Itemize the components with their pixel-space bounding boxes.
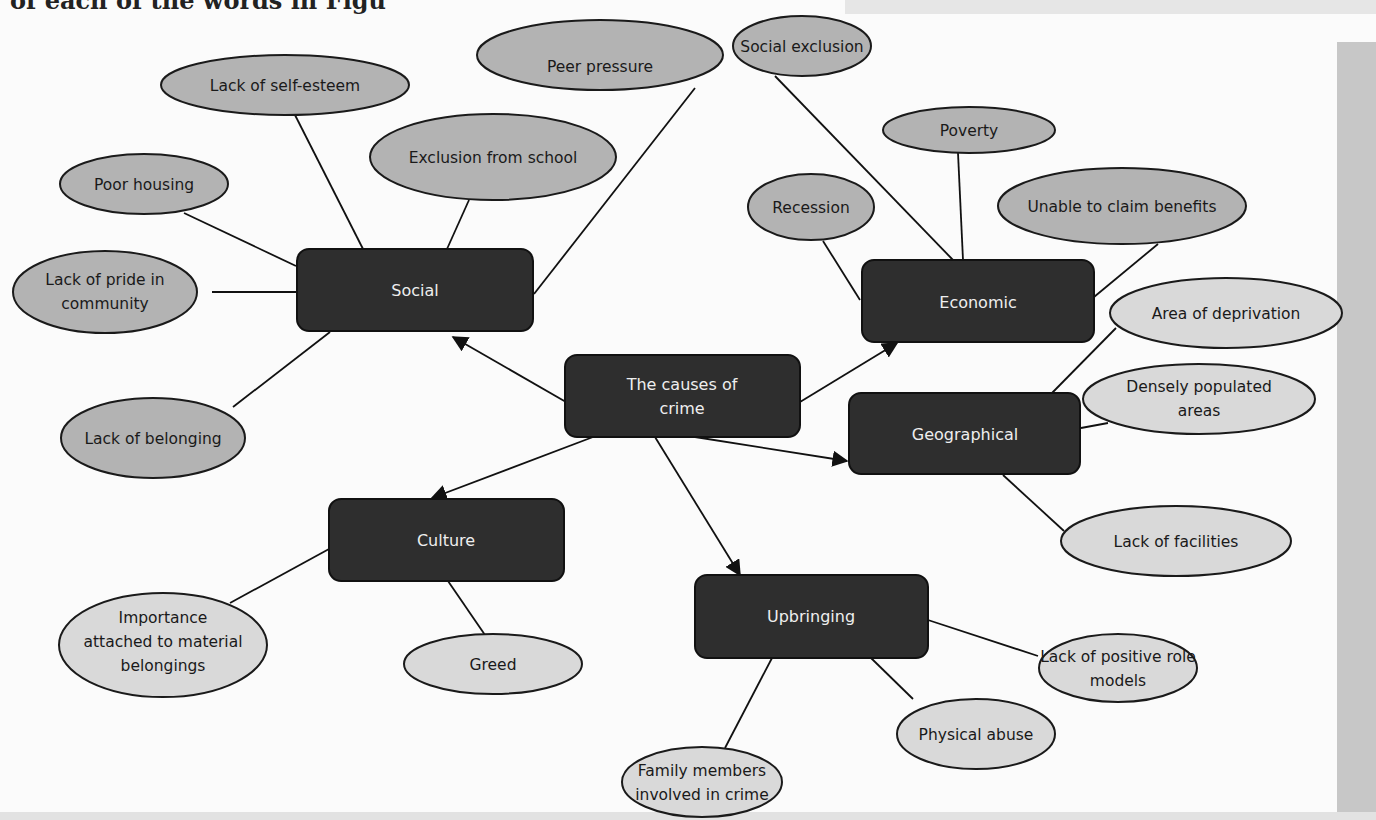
svg-text:areas: areas: [1178, 402, 1221, 420]
cause-family-members-involved-in-crime: Family members involved in crime: [622, 747, 782, 817]
category-social: Social: [297, 249, 533, 331]
cause-poor-housing: Poor housing: [60, 154, 228, 214]
svg-text:Unable to claim benefits: Unable to claim benefits: [1027, 198, 1216, 216]
svg-text:Recession: Recession: [772, 199, 849, 217]
category-upbringing-label: Upbringing: [767, 607, 855, 626]
cause-lack-of-facilities: Lack of facilities: [1061, 506, 1291, 576]
cause-lack-of-belonging: Lack of belonging: [61, 398, 245, 478]
central-node-line2: crime: [659, 399, 704, 418]
svg-text:Importance: Importance: [119, 609, 208, 627]
svg-text:Poverty: Poverty: [940, 122, 999, 140]
cause-greed: Greed: [404, 634, 582, 694]
category-economic-label: Economic: [939, 293, 1016, 312]
central-node: The causes of crime: [565, 355, 800, 437]
category-culture: Culture: [329, 499, 564, 581]
svg-text:Densely populated: Densely populated: [1126, 378, 1272, 396]
svg-text:Lack of self-esteem: Lack of self-esteem: [210, 77, 360, 95]
cause-exclusion-from-school: Exclusion from school: [370, 114, 616, 200]
svg-text:Social exclusion: Social exclusion: [740, 38, 863, 56]
cause-peer-pressure: Peer pressure: [477, 20, 723, 90]
svg-text:Area of deprivation: Area of deprivation: [1152, 305, 1301, 323]
category-geographical: Geographical: [849, 393, 1080, 474]
svg-text:belongings: belongings: [121, 657, 206, 675]
cause-lack-of-self-esteem: Lack of self-esteem: [161, 55, 409, 115]
category-economic: Economic: [862, 260, 1094, 342]
svg-text:models: models: [1090, 672, 1146, 690]
svg-text:Family members: Family members: [638, 762, 766, 780]
cause-lack-of-pride-in-community: Lack of pride in community: [13, 251, 197, 333]
cause-area-of-deprivation: Area of deprivation: [1110, 278, 1342, 348]
svg-text:Exclusion from school: Exclusion from school: [409, 149, 578, 167]
svg-text:Physical abuse: Physical abuse: [919, 726, 1034, 744]
category-culture-label: Culture: [417, 531, 475, 550]
cause-lack-of-positive-role-models: Lack of positive role models: [1039, 634, 1197, 702]
svg-text:Poor housing: Poor housing: [94, 176, 194, 194]
cause-importance-material-belongings: Importance attached to material belongin…: [59, 593, 267, 697]
svg-text:Greed: Greed: [470, 656, 517, 674]
svg-text:Lack of facilities: Lack of facilities: [1114, 533, 1239, 551]
category-social-label: Social: [391, 281, 438, 300]
svg-text:attached to material: attached to material: [84, 633, 243, 651]
cause-recession: Recession: [748, 174, 874, 240]
svg-text:Lack of belonging: Lack of belonging: [84, 430, 221, 448]
svg-text:Lack of pride in: Lack of pride in: [45, 271, 164, 289]
cause-unable-to-claim-benefits: Unable to claim benefits: [998, 168, 1246, 244]
svg-text:community: community: [61, 295, 148, 313]
cause-social-exclusion: Social exclusion: [733, 16, 871, 76]
category-upbringing: Upbringing: [695, 575, 928, 658]
svg-text:Peer pressure: Peer pressure: [547, 58, 653, 76]
cause-poverty: Poverty: [883, 107, 1055, 153]
cause-densely-populated-areas: Densely populated areas: [1083, 364, 1315, 434]
category-geographical-label: Geographical: [912, 425, 1018, 444]
cause-physical-abuse: Physical abuse: [897, 699, 1055, 769]
mind-map: The causes of crime Social Lack of self-…: [0, 0, 1376, 820]
central-node-line1: The causes of: [626, 375, 738, 394]
svg-text:Lack of positive role: Lack of positive role: [1040, 648, 1196, 666]
svg-text:involved in crime: involved in crime: [635, 786, 768, 804]
